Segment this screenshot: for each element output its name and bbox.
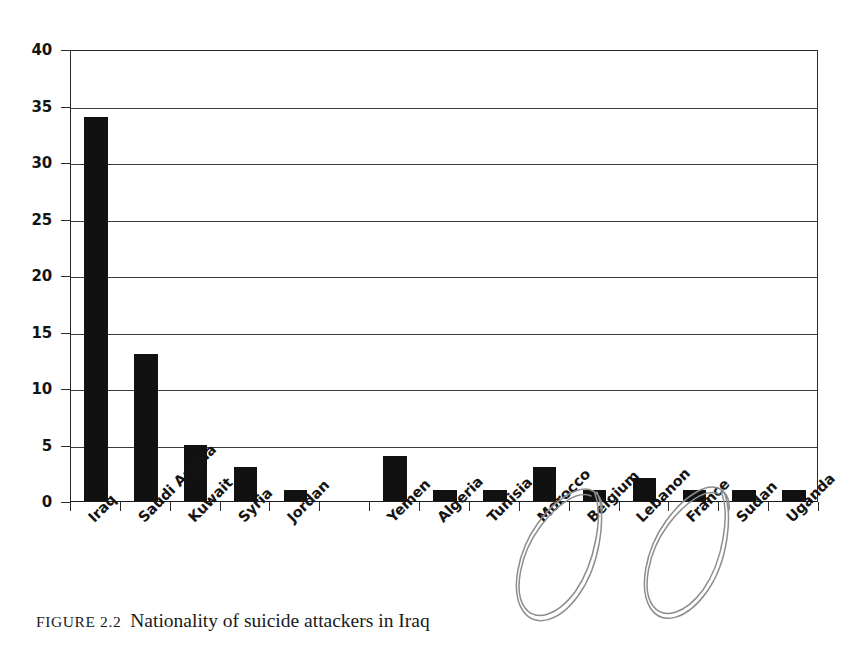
gridline bbox=[71, 164, 817, 165]
y-tick-mark bbox=[61, 163, 70, 164]
gridline bbox=[71, 447, 817, 448]
gridline bbox=[71, 277, 817, 278]
y-tick-label: 10 bbox=[12, 380, 52, 398]
y-tick-mark bbox=[61, 502, 70, 503]
figure-2-2: 0510152025303540 IraqSaudi ArabiaKuwaitS… bbox=[0, 0, 863, 655]
x-tick-mark bbox=[369, 502, 370, 511]
x-tick-mark bbox=[668, 502, 669, 511]
caption-text: Nationality of suicide attackers in Iraq bbox=[130, 610, 429, 631]
x-tick-mark bbox=[619, 502, 620, 511]
x-tick-mark bbox=[319, 502, 320, 511]
x-tick-mark bbox=[269, 502, 270, 511]
y-tick-label: 5 bbox=[12, 437, 52, 455]
figure-caption: FIGURE 2.2Nationality of suicide attacke… bbox=[36, 610, 430, 632]
y-tick-label: 20 bbox=[12, 267, 52, 285]
y-tick-mark bbox=[61, 107, 70, 108]
bar bbox=[134, 354, 157, 501]
x-tick-mark bbox=[70, 502, 71, 511]
y-tick-label: 0 bbox=[12, 493, 52, 511]
y-tick-mark bbox=[61, 333, 70, 334]
y-tick-mark bbox=[61, 389, 70, 390]
y-tick-mark bbox=[61, 50, 70, 51]
bar bbox=[84, 117, 107, 501]
x-tick-mark bbox=[768, 502, 769, 511]
y-tick-label: 40 bbox=[12, 41, 52, 59]
x-tick-mark bbox=[818, 502, 819, 511]
x-tick-mark bbox=[170, 502, 171, 511]
y-tick-label: 30 bbox=[12, 154, 52, 172]
y-tick-mark bbox=[61, 446, 70, 447]
caption-figure-label: FIGURE 2.2 bbox=[36, 613, 121, 630]
y-tick-label: 35 bbox=[12, 98, 52, 116]
gridline bbox=[71, 108, 817, 109]
x-tick-mark bbox=[718, 502, 719, 511]
y-tick-label: 15 bbox=[12, 324, 52, 342]
y-tick-mark bbox=[61, 220, 70, 221]
gridline bbox=[71, 390, 817, 391]
y-tick-label: 25 bbox=[12, 211, 52, 229]
x-tick-mark bbox=[469, 502, 470, 511]
chart-plot-area bbox=[70, 50, 818, 502]
x-tick-mark bbox=[519, 502, 520, 511]
x-tick-mark bbox=[220, 502, 221, 511]
y-tick-mark bbox=[61, 276, 70, 277]
gridline bbox=[71, 221, 817, 222]
x-tick-mark bbox=[419, 502, 420, 511]
gridline bbox=[71, 334, 817, 335]
x-tick-mark bbox=[120, 502, 121, 511]
x-tick-mark bbox=[569, 502, 570, 511]
